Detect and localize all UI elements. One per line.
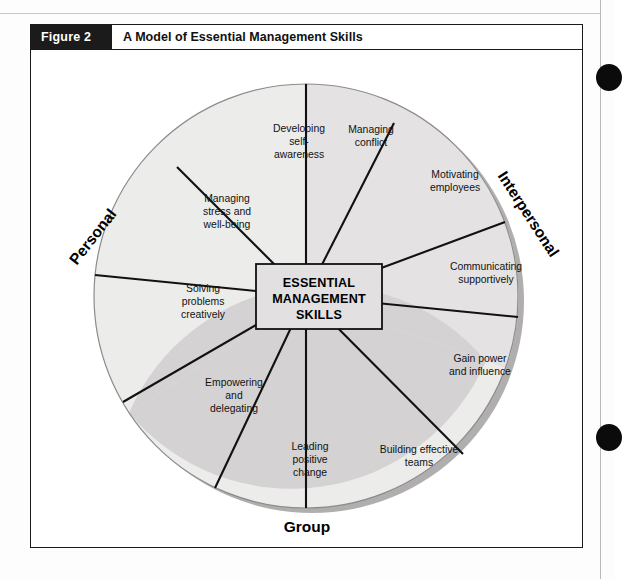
wedge-label-line: supportively (458, 274, 514, 285)
wedge-label-line: Communicating (450, 261, 522, 272)
figure-frame: Figure 2 A Model of Essential Management… (30, 24, 583, 548)
page-top-rule (0, 13, 601, 14)
wedge-label-line: stress and (203, 206, 251, 217)
wedge-label-line: teams (405, 457, 433, 468)
wedge-label-solving-problems-creatively: Solving problems creatively (181, 283, 226, 320)
wedge-label-line: self- (289, 136, 309, 147)
wedge-label-line: Empowering (205, 377, 263, 388)
wedge-label-line: Managing (348, 124, 394, 135)
binder-hole-icon (596, 424, 622, 451)
wedge-label-line: Solving (186, 283, 220, 294)
wedge-label-line: delegating (210, 403, 258, 414)
wedge-label-line: Motivating (431, 169, 479, 180)
figure-number-tag: Figure 2 (31, 25, 112, 49)
wedge-label-line: and (225, 390, 243, 401)
wedge-label-line: Gain power (453, 353, 507, 364)
center-label-line2: MANAGEMENT (272, 292, 366, 306)
center-label-line1: ESSENTIAL (283, 276, 356, 290)
wedge-label-line: problems (182, 296, 225, 307)
wedge-label-line: change (293, 467, 327, 478)
center-label-line3: SKILLS (296, 308, 342, 322)
figure-caption-bar: Figure 2 A Model of Essential Management… (31, 25, 582, 50)
wedge-label-line: creatively (181, 309, 226, 320)
wedge-label-line: and influence (449, 366, 511, 377)
wedge-label-line: conflict (355, 137, 387, 148)
wedge-label-line: employees (430, 182, 480, 193)
wedge-label-leading-positive-change: Leading positive change (292, 441, 329, 478)
wedge-label-line: well-being (203, 219, 251, 230)
axis-label-group: Group (284, 518, 331, 535)
wedge-label-line: Managing (204, 193, 250, 204)
figure-title: A Model of Essential Management Skills (112, 25, 363, 49)
binder-hole-icon (596, 64, 622, 91)
management-skills-wheel: ESSENTIAL MANAGEMENT SKILLS Developing s… (31, 50, 582, 547)
wedge-label-line: positive (292, 454, 327, 465)
wedge-label-line: Developing (273, 123, 325, 134)
wedge-label-line: awareness (274, 149, 324, 160)
wedge-label-line: Building effective (380, 444, 459, 455)
wedge-label-line: Leading (292, 441, 329, 452)
wedge-label-managing-stress-and-well-being: Managing stress and well-being (203, 193, 252, 230)
